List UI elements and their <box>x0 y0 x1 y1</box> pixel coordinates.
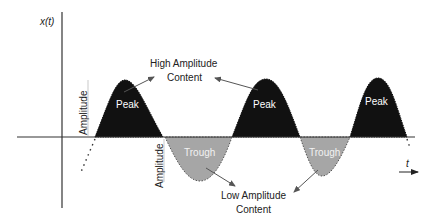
wave-tail-dotted <box>407 139 410 148</box>
amplitude-marker-2-label: Amplitude <box>154 143 165 188</box>
trough-1-shape <box>165 137 232 181</box>
wave-lead-in-dotted <box>81 139 95 172</box>
low-amplitude-arrow-2 <box>294 170 318 192</box>
peak-1-label: Peak <box>116 99 140 110</box>
peak-3-label: Peak <box>365 96 389 107</box>
y-axis-label: x(t) <box>39 16 54 27</box>
peak-3-shape <box>350 78 407 137</box>
low-amplitude-label-line2: Content <box>236 204 271 215</box>
x-axis-label: t <box>406 158 410 169</box>
peak-2-label: Peak <box>253 99 277 110</box>
high-amplitude-label-line2: Content <box>167 72 202 83</box>
low-amplitude-label-line1: Low Amplitude <box>221 190 286 201</box>
waveform-diagram: x(t) t Amplitude Amplitude Peak Peak Pea… <box>0 0 434 224</box>
high-amplitude-arrow-2 <box>215 78 258 90</box>
trough-2-label: Trough <box>309 147 340 158</box>
trough-1-label: Trough <box>184 147 215 158</box>
amplitude-marker-1-label: Amplitude <box>78 90 89 135</box>
high-amplitude-label-line1: High Amplitude <box>150 58 218 69</box>
